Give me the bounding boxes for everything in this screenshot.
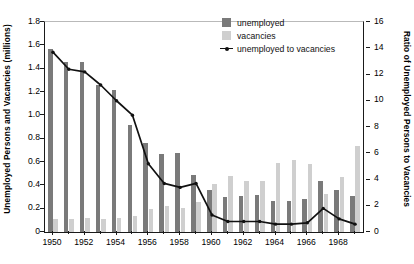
x-tick-mark — [243, 231, 244, 235]
x-tick-mark — [116, 231, 117, 235]
x-tick-mark — [211, 231, 212, 235]
y-tick-mark-right — [366, 205, 370, 206]
legend: unemployed vacancies unemployed to vacan… — [222, 16, 392, 55]
y-tick-label-right: 12 — [374, 69, 384, 78]
ratio-line-marker — [258, 220, 261, 223]
y-tick-label-left: 0.6 — [28, 157, 40, 166]
y-axis-title-right: Ratio of Unemployed Persons to Vacancies — [400, 0, 414, 238]
ratio-line-marker — [51, 50, 54, 53]
ratio-line-marker — [178, 186, 181, 189]
ratio-line-marker — [306, 221, 309, 224]
x-tick-label: 1956 — [138, 237, 157, 247]
y-tick-label-left: 1.6 — [28, 40, 40, 49]
y-axis-title-left-text: Unemployed Persons and Vacancies (millio… — [2, 24, 12, 214]
x-tick-mark-minor — [354, 231, 355, 234]
x-tick-mark-minor — [195, 231, 196, 234]
x-tick-mark-minor — [259, 231, 260, 234]
y-axis-title-right-text: Ratio of Unemployed Persons to Vacancies — [402, 31, 412, 207]
y-axis-title-left: Unemployed Persons and Vacancies (millio… — [0, 0, 14, 238]
y-tick-mark-right — [366, 231, 370, 232]
y-tick-label-left: 1.4 — [28, 63, 40, 72]
x-tick-mark-minor — [131, 231, 132, 234]
legend-label-vacancies: vacancies — [237, 31, 276, 41]
y-tick-label-right: 10 — [374, 95, 384, 104]
x-tick-mark-minor — [227, 231, 228, 234]
y-tick-label-right: 8 — [374, 122, 379, 131]
ratio-line-marker — [83, 70, 86, 73]
ratio-line-marker — [353, 222, 356, 225]
x-tick-mark — [52, 231, 53, 235]
y-tick-label-right: 0 — [374, 227, 379, 236]
legend-item-ratio: unemployed to vacancies — [222, 42, 392, 55]
x-tick-mark-minor — [163, 231, 164, 234]
y-tick-label-left: 1.8 — [28, 17, 40, 26]
ratio-line-marker — [194, 182, 197, 185]
legend-item-unemployed: unemployed — [222, 16, 392, 29]
x-tick-label: 1968 — [329, 237, 348, 247]
x-tick-label: 1954 — [106, 237, 125, 247]
legend-swatch-icon-unemployed — [222, 18, 231, 27]
x-tick-label: 1964 — [265, 237, 284, 247]
ratio-line-marker — [242, 220, 245, 223]
x-axis: 1950195219541956195819601962196419661968 — [44, 231, 362, 261]
legend-label-unemployed: unemployed — [237, 18, 284, 28]
y-tick-label-right: 6 — [374, 148, 379, 157]
x-tick-mark — [275, 231, 276, 235]
x-tick-mark — [84, 231, 85, 235]
y-tick-mark-right — [366, 74, 370, 75]
x-tick-mark — [338, 231, 339, 235]
legend-label-ratio: unemployed to vacancies — [237, 44, 335, 54]
y-tick-mark-right — [366, 100, 370, 101]
x-tick-mark-minor — [100, 231, 101, 234]
ratio-line-marker — [274, 222, 277, 225]
y-tick-label-left: 1.0 — [28, 110, 40, 119]
ratio-line-marker — [99, 83, 102, 86]
x-tick-mark — [179, 231, 180, 235]
ratio-line-marker — [322, 207, 325, 210]
ratio-line-marker — [210, 213, 213, 216]
x-tick-label: 1962 — [233, 237, 252, 247]
y-tick-label-left: 0.8 — [28, 133, 40, 142]
x-tick-label: 1950 — [42, 237, 61, 247]
ratio-line-marker — [115, 99, 118, 102]
y-tick-mark-right — [366, 126, 370, 127]
ratio-line-marker — [290, 222, 293, 225]
ratio-line-path — [53, 52, 355, 224]
x-tick-label: 1966 — [297, 237, 316, 247]
legend-item-vacancies: vacancies — [222, 29, 392, 42]
ratio-line-marker — [147, 162, 150, 165]
y-tick-label-left: 0.2 — [28, 203, 40, 212]
y-tick-label-left: 1.2 — [28, 87, 40, 96]
y-tick-label-right: 2 — [374, 200, 379, 209]
x-tick-mark-minor — [290, 231, 291, 234]
x-tick-mark — [147, 231, 148, 235]
x-tick-label: 1958 — [170, 237, 189, 247]
legend-line-marker-icon-ratio — [222, 44, 231, 53]
y-tick-mark-right — [366, 152, 370, 153]
x-tick-mark-minor — [322, 231, 323, 234]
y-axis-ticks-left: 00.20.40.60.81.01.21.41.61.8 — [16, 0, 40, 264]
ratio-line-marker — [67, 68, 70, 71]
legend-swatch-icon-vacancies — [222, 31, 231, 40]
ratio-line-marker — [131, 113, 134, 116]
ratio-line-marker — [337, 217, 340, 220]
ratio-line-marker — [163, 182, 166, 185]
y-tick-label-right: 4 — [374, 174, 379, 183]
x-tick-mark-minor — [68, 231, 69, 234]
y-tick-mark-right — [366, 179, 370, 180]
ratio-line-marker — [226, 220, 229, 223]
y-tick-label-left: 0.4 — [28, 180, 40, 189]
chart-container: Unemployed Persons and Vacancies (millio… — [0, 0, 414, 264]
x-tick-label: 1960 — [201, 237, 220, 247]
x-tick-mark — [306, 231, 307, 235]
x-tick-label: 1952 — [74, 237, 93, 247]
